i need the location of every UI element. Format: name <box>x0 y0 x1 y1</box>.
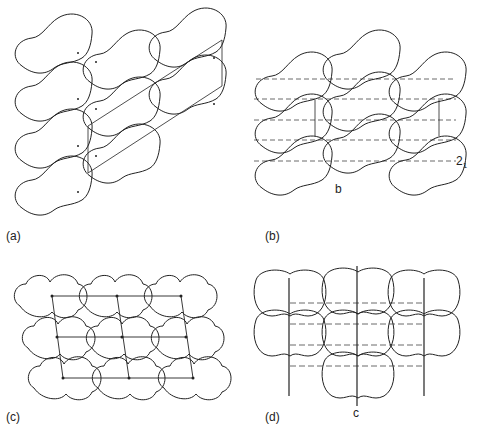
panel-b-diagram <box>254 30 466 195</box>
panel-a-label: (a) <box>6 229 21 243</box>
panel-a-diagram <box>15 8 226 215</box>
panel-c-diagram <box>14 275 231 400</box>
panel-d-label: (d) <box>265 410 280 424</box>
axis-label-c: c <box>353 406 359 420</box>
symmetry-sub: 1 <box>463 161 467 170</box>
symmetry-main: 2 <box>456 154 463 168</box>
panel-b-label: (b) <box>265 229 280 243</box>
panel-c-label: (c) <box>6 410 20 424</box>
panel-d-diagram <box>254 266 460 406</box>
figure-canvas <box>0 0 481 444</box>
symmetry-label-2-1: 21 <box>456 154 467 170</box>
axis-label-b: b <box>335 182 342 196</box>
